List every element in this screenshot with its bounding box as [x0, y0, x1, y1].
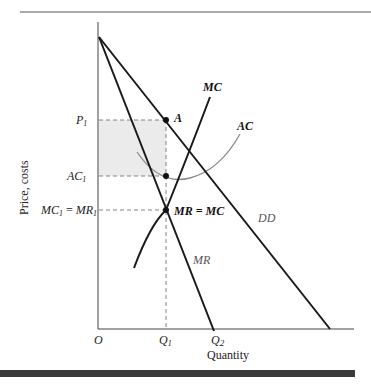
q1-label: Q1: [159, 333, 172, 348]
ac-label: AC: [236, 119, 254, 133]
mc1-mr1-label: MC1 = MR1: [40, 203, 97, 218]
mc-label: MC: [202, 80, 223, 94]
origin-label: O: [94, 333, 103, 347]
point-a-label: A: [173, 111, 182, 125]
bottom-rule-bar: [0, 370, 355, 377]
mr-eq-mc-label: MR = MC: [173, 204, 225, 218]
mr-curve: [99, 37, 214, 331]
dd-label: DD: [257, 211, 276, 225]
x-axis-title: Quantity: [207, 348, 249, 362]
p1-label: P1: [75, 113, 87, 128]
point-a: [163, 117, 169, 123]
q2-label: Q2: [211, 333, 225, 348]
monopoly-diagram: MC AC DD MR A MR = MC P1 AC1 MC1 = MR1 P…: [0, 0, 371, 389]
ac1-label: AC1: [66, 169, 86, 184]
profit-area: [99, 120, 166, 176]
point-mr-eq-mc: [163, 207, 169, 213]
mr-label: MR: [192, 253, 211, 267]
y-axis-title: Price, costs: [17, 160, 31, 215]
point-ac1: [163, 173, 169, 179]
